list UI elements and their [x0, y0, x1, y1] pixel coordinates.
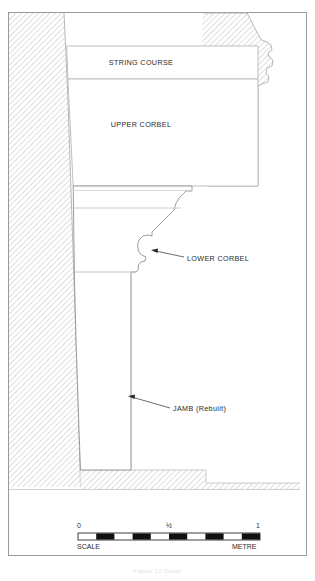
scale-label-left: SCALE [77, 543, 100, 550]
scale-label-right: METRE [232, 543, 257, 550]
label-string-course: STRING COURSE [109, 59, 173, 66]
architectural-section-drawing [0, 0, 315, 581]
scale-bar [78, 533, 260, 540]
drawing-page: STRING COURSE UPPER CORBEL LOWER CORBEL … [0, 0, 315, 581]
figure-caption: Figure 12 Detail [133, 568, 182, 574]
scale-tick-mid: ½ [166, 522, 172, 529]
scale-tick-end: 1 [256, 522, 260, 529]
label-upper-corbel: UPPER CORBEL [111, 121, 172, 128]
upper-corbel-block [68, 79, 258, 186]
scale-tick-start: 0 [77, 522, 81, 529]
label-lower-corbel: LOWER CORBEL [187, 255, 249, 262]
label-jamb-rebuilt: JAMB (Rebuilt) [173, 405, 226, 412]
